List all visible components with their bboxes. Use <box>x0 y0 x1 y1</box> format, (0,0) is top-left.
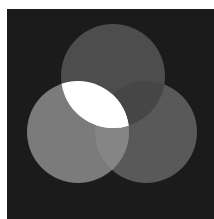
overlapping-circles-graphic <box>0 0 214 219</box>
